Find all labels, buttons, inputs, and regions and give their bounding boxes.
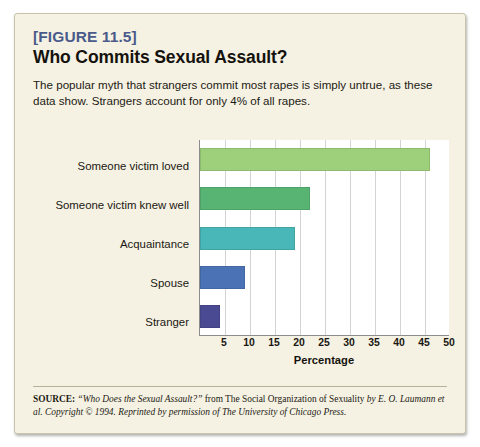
bar — [200, 227, 295, 250]
x-tick-label: 35 — [368, 337, 380, 348]
x-tick-label: 40 — [393, 337, 405, 348]
x-tick-label: 15 — [268, 337, 280, 348]
source-quote: “Who Does the Sexual Assault?” — [78, 394, 203, 404]
figure-description: The popular myth that strangers commit m… — [33, 77, 445, 109]
x-axis-ticks: 5101520253035404550 — [199, 337, 449, 353]
source-caption: SOURCE: “Who Does the Sexual Assault?” f… — [33, 393, 447, 418]
x-axis-title: Percentage — [199, 354, 449, 366]
plot-area — [199, 140, 449, 336]
x-tick-label: 50 — [443, 337, 455, 348]
bar — [200, 187, 310, 210]
bar-chart: Someone victim lovedSomeone victim knew … — [33, 140, 449, 372]
x-tick-label: 5 — [221, 337, 227, 348]
x-tick-label: 30 — [343, 337, 355, 348]
source-label: SOURCE: — [33, 394, 75, 404]
source-divider — [33, 386, 447, 387]
figure-title: Who Commits Sexual Assault? — [33, 47, 447, 68]
x-tick-label: 25 — [318, 337, 330, 348]
category-labels: Someone victim lovedSomeone victim knew … — [33, 140, 197, 336]
figure-panel: [FIGURE 11.5] Who Commits Sexual Assault… — [14, 13, 466, 434]
source-from: from The Social Organization of Sexualit… — [202, 394, 366, 404]
x-tick-label: 45 — [418, 337, 430, 348]
bar — [200, 266, 245, 289]
bar — [200, 148, 430, 171]
bar — [200, 305, 220, 328]
x-tick-label: 20 — [293, 337, 305, 348]
x-tick-label: 10 — [243, 337, 255, 348]
figure-number: [FIGURE 11.5] — [33, 28, 447, 46]
plot-area-wrapper: Someone victim lovedSomeone victim knew … — [33, 140, 449, 336]
